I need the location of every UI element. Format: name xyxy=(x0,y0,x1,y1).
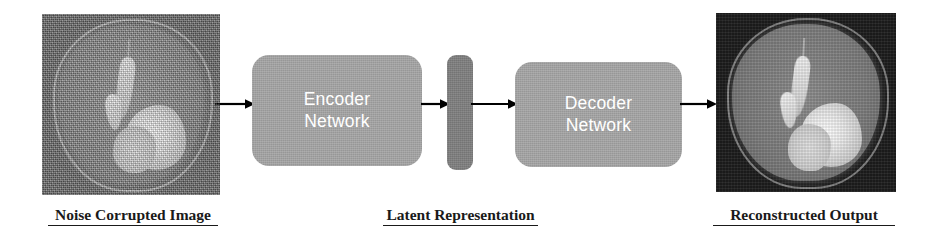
caption-latent-representation: Latent Representation xyxy=(383,206,538,226)
decoder-label-line1: Decoder xyxy=(565,93,633,114)
arrow-decoder-to-output xyxy=(680,98,717,110)
caption-reconstructed-output: Reconstructed Output xyxy=(713,206,895,226)
decoder-network-block[interactable]: Decoder Network xyxy=(515,62,682,167)
arrow-input-to-encoder xyxy=(215,98,255,110)
arrow-encoder-to-latent xyxy=(421,98,450,110)
encoder-label-line2: Network xyxy=(304,111,370,132)
noise-corrupted-brain-mri xyxy=(42,14,220,195)
caption-noise-corrupted-image: Noise Corrupted Image xyxy=(48,206,218,226)
reconstructed-brain-mri xyxy=(716,13,896,192)
encoder-network-block[interactable]: Encoder Network xyxy=(252,55,422,166)
encoder-label-line1: Encoder xyxy=(304,89,371,110)
latent-representation-block[interactable] xyxy=(447,55,473,170)
autoencoder-diagram: Encoder Network Decoder Network Noise Co… xyxy=(0,0,938,243)
decoder-label-line2: Network xyxy=(566,115,632,136)
lesion-mass xyxy=(113,126,156,173)
lesion-mass xyxy=(788,124,831,171)
arrow-latent-to-decoder xyxy=(471,98,518,110)
